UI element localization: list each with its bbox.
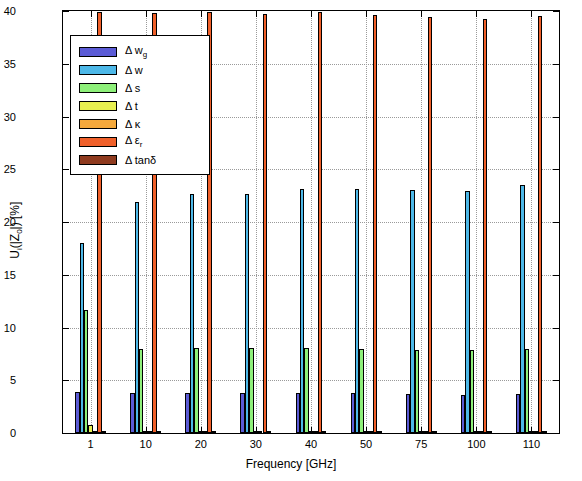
x-axis-tick [476,11,477,17]
x-axis-tick-label: 10 [140,438,152,450]
y-axis-tick-label: 35 [4,58,16,70]
x-axis-tick [311,11,312,17]
legend: Δ wgΔ wΔ sΔ tΔ κΔ εrΔ tanδ [70,35,210,175]
legend-item: Δ wg [79,45,147,59]
legend-swatch [79,47,117,57]
chart-figure: 0510152025303540 1102030405075100110 Fre… [0,0,582,481]
y-axis-tick [63,169,69,170]
legend-item: Δ w [79,63,143,77]
legend-swatch [79,137,117,147]
bar [267,431,271,433]
x-axis-tick-label: 110 [523,438,541,450]
legend-label: Δ t [125,100,138,112]
x-axis-tick [256,11,257,17]
x-axis-tick-label: 20 [195,438,207,450]
bar [377,431,381,433]
bar [102,431,106,433]
legend-swatch [79,65,117,75]
x-axis-tick-label: 30 [250,438,262,450]
bar [428,17,432,433]
x-axis-tick-label: 1 [87,438,93,450]
legend-item: Δ tanδ [79,153,156,167]
bar [318,12,322,433]
y-axis-tick [63,222,69,223]
y-axis-tick-label: 30 [4,111,16,123]
legend-label: Δ wg [125,44,147,59]
legend-swatch [79,119,117,129]
y-axis-tick-label: 40 [4,5,16,17]
x-axis-tick-label: 75 [415,438,427,450]
bar [139,349,143,433]
gridline-vertical [256,11,257,433]
y-axis-tick [63,64,69,65]
legend-label: Δ w [125,64,143,76]
bar [432,431,436,433]
x-axis-tick-label: 50 [360,438,372,450]
y-axis-tick [63,380,69,381]
bar [483,19,487,433]
bar [157,431,161,433]
gridline-vertical [311,11,312,433]
legend-item: Δ εr [79,135,142,149]
bar [304,348,308,433]
bar [373,15,377,433]
y-axis-tick [553,328,559,329]
x-axis-tick-label: 40 [305,438,317,450]
gridline-vertical [531,11,532,433]
x-axis-tick [421,11,422,17]
x-axis-tick [531,11,532,17]
bar [359,349,363,433]
legend-item: Δ κ [79,117,140,131]
x-axis-title: Frequency [GHz] [0,457,582,471]
bar [322,431,326,433]
y-axis-tick [553,222,559,223]
legend-swatch [79,83,117,93]
bar [212,431,216,433]
y-axis-tick-label: 0 [10,427,16,439]
legend-swatch [79,155,117,165]
y-axis-tick [553,275,559,276]
y-axis-tick [63,328,69,329]
y-axis-tick [553,64,559,65]
x-axis-tick [366,11,367,17]
y-axis-tick [553,169,559,170]
bar [194,348,198,433]
y-axis-tick [553,11,559,12]
x-axis-title-text: Frequency [GHz] [246,457,337,471]
bar [415,350,419,433]
y-axis-tick [553,380,559,381]
y-axis-title: Ui(|Z0|) [%] [8,130,24,330]
bar [263,14,267,433]
gridline-vertical [366,11,367,433]
x-axis-tick [201,11,202,17]
legend-label: Δ εr [125,134,142,149]
legend-item: Δ t [79,99,138,113]
bar [249,348,253,433]
y-axis-tick [63,11,69,12]
bar [84,310,88,433]
legend-item: Δ s [79,81,140,95]
legend-swatch [79,101,117,111]
x-axis-tick-label: 100 [467,438,485,450]
gridline-vertical [476,11,477,433]
legend-label: Δ tanδ [125,154,156,166]
x-axis-tick [91,11,92,17]
x-axis-tick [146,11,147,17]
bar [542,431,546,433]
bar [487,431,491,433]
bar [525,349,529,433]
y-axis-tick [553,117,559,118]
legend-label: Δ κ [125,118,140,130]
bar [538,16,542,433]
bar [470,350,474,433]
legend-label: Δ s [125,82,140,94]
gridline-vertical [421,11,422,433]
y-axis-tick [63,117,69,118]
y-axis-tick [63,275,69,276]
y-axis-tick-label: 5 [10,374,16,386]
